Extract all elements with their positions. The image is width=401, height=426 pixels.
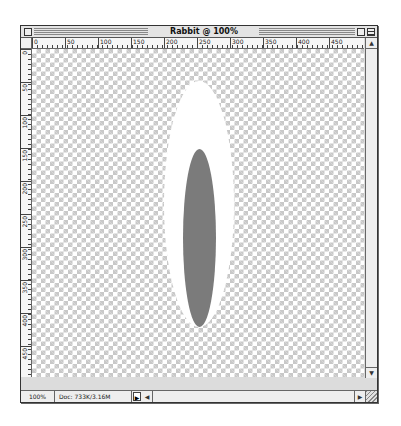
info-popup-arrow-icon[interactable]: ▶ <box>133 392 141 401</box>
ruler-label: 0 <box>21 51 28 55</box>
image-canvas[interactable] <box>32 49 364 377</box>
ruler-label: 250 <box>21 216 28 227</box>
ruler-label: 100 <box>98 38 111 45</box>
zoom-box-icon[interactable] <box>357 28 365 36</box>
ruler-label: 250 <box>197 38 210 45</box>
title-bar[interactable]: Rabbit @ 100% (Ears,RGB) <box>21 26 377 38</box>
title-stripes-right <box>259 28 355 35</box>
zoom-level-field[interactable]: 100% <box>21 391 55 402</box>
vertical-scrollbar[interactable]: ▲ ▼ <box>365 38 377 378</box>
ruler-label: 200 <box>21 183 28 194</box>
ruler-origin-corner[interactable] <box>21 38 32 49</box>
scroll-right-arrow-icon[interactable]: ▶ <box>354 391 365 402</box>
resize-grow-box-icon[interactable] <box>365 390 377 402</box>
ruler-label: 400 <box>21 315 28 326</box>
ruler-label: 400 <box>296 38 309 45</box>
horizontal-ruler[interactable]: 0 50 100 150 200 250 300 350 400 450 <box>32 38 364 49</box>
ruler-label: 350 <box>263 38 276 45</box>
ruler-label: 100 <box>21 117 28 128</box>
vertical-ruler[interactable]: 0 50 100 150 200 250 300 350 400 450 <box>21 49 32 377</box>
ruler-label: 350 <box>21 282 28 293</box>
title-stripes-left <box>34 28 148 35</box>
close-box-icon[interactable] <box>24 28 32 36</box>
scroll-up-arrow-icon[interactable]: ▲ <box>366 38 377 49</box>
document-size-info: Doc: 733K/3.16M <box>55 391 132 402</box>
ruler-label: 0 <box>32 38 38 45</box>
scroll-left-arrow-icon[interactable]: ◀ <box>142 391 153 402</box>
scroll-down-arrow-icon[interactable]: ▼ <box>366 367 377 378</box>
ruler-label: 450 <box>329 38 342 45</box>
ruler-label: 300 <box>21 249 28 260</box>
ruler-label: 50 <box>65 38 75 45</box>
document-window: Rabbit @ 100% (Ears,RGB) 0 50 100 150 20… <box>20 25 378 403</box>
ruler-label: 150 <box>131 38 144 45</box>
inner-ear-ellipse[interactable] <box>183 149 216 327</box>
ruler-label: 450 <box>21 348 28 359</box>
ruler-label: 300 <box>230 38 243 45</box>
ruler-label: 150 <box>21 150 28 161</box>
ruler-label: 200 <box>164 38 177 45</box>
collapse-box-icon[interactable] <box>367 28 375 36</box>
status-bar: 100% Doc: 733K/3.16M ▶ ◀ ▶ <box>21 390 365 402</box>
ruler-label: 50 <box>21 84 28 92</box>
